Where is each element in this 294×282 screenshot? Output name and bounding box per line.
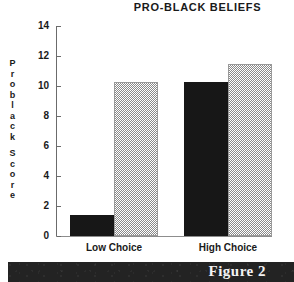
y-axis-tick: 12	[56, 56, 61, 57]
bar-black-bar-high-choice	[184, 82, 229, 237]
y-axis-tick: 2	[56, 206, 61, 207]
y-axis-tick-mark	[57, 206, 61, 207]
plot-area: 02468101214 Low ChoiceHigh Choice	[56, 26, 272, 237]
y-axis-tick-mark	[57, 86, 61, 87]
y-axis-tick-mark	[57, 176, 61, 177]
y-axis-title: ProblackScore	[6, 58, 19, 201]
y-axis-title-letter: P	[6, 58, 19, 69]
y-axis-title-letter: r	[6, 180, 19, 191]
bar-black-bar-low-choice	[70, 215, 115, 236]
y-axis-tick-label: 8	[43, 110, 49, 121]
y-axis-title-letter: c	[6, 159, 19, 170]
y-axis-tick: 0	[56, 236, 61, 237]
y-axis-title-letter: e	[6, 190, 19, 201]
y-axis-title-letter: l	[6, 100, 19, 111]
y-axis-tick: 6	[56, 146, 61, 147]
y-axis-tick-mark	[57, 116, 61, 117]
y-axis-tick-label: 10	[38, 80, 49, 91]
y-axis-tick-label: 4	[43, 170, 49, 181]
bar-checkered-bar-high-choice	[228, 64, 272, 237]
y-axis-title-letter: b	[6, 90, 19, 101]
y-axis-tick: 14	[56, 26, 61, 27]
chart-title: PRO-BLACK BELIEFS	[105, 1, 290, 13]
x-axis-line	[56, 236, 272, 237]
figure-caption-text: Figure 2	[209, 263, 266, 280]
y-axis-tick-label: 2	[43, 200, 49, 211]
y-axis-tick-mark	[57, 56, 61, 57]
y-axis-tick-mark	[57, 146, 61, 147]
y-axis-tick-mark	[57, 236, 61, 237]
y-axis-title-letter: k	[6, 132, 19, 143]
y-axis-tick-label: 14	[38, 20, 49, 31]
y-axis-tick: 8	[56, 116, 61, 117]
y-axis-tick-mark	[57, 26, 61, 27]
y-axis-title-letter: S	[6, 148, 19, 159]
x-axis-label-low-choice: Low Choice	[70, 242, 158, 253]
figure-caption-band: Figure 2	[8, 262, 294, 282]
x-axis-label-high-choice: High Choice	[184, 242, 272, 253]
y-axis-title-letter: o	[6, 79, 19, 90]
bar-checkered-bar-low-choice	[114, 82, 158, 237]
y-axis-tick-label: 6	[43, 140, 49, 151]
y-axis-tick: 4	[56, 176, 61, 177]
y-axis-tick-label: 12	[38, 50, 49, 61]
y-axis-title-letter: a	[6, 111, 19, 122]
figure-container: PRO-BLACK BELIEFS ProblackScore 02468101…	[0, 0, 294, 282]
y-axis-tick-label: 0	[43, 230, 49, 241]
y-axis-tick: 10	[56, 86, 61, 87]
y-axis-title-letter: r	[6, 69, 19, 80]
y-axis-title-letter: c	[6, 121, 19, 132]
y-axis-title-letter: o	[6, 169, 19, 180]
